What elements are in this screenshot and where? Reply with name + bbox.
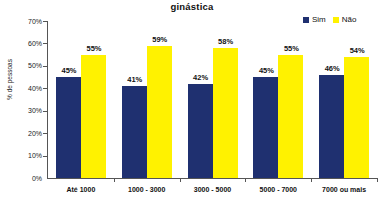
y-axis-tick-label: 0% [12,175,42,182]
chart-title: ginástica [0,1,384,12]
x-axis-tick-mark [245,178,246,182]
bar-nao [278,55,303,178]
x-axis-line [47,178,377,179]
y-axis-tick-mark [43,88,47,89]
bar-sim [253,77,278,178]
plot-area: 45%55%41%59%42%58%45%55%46%54% [48,21,377,178]
bar-value-label: 58% [209,38,243,46]
bar-value-label: 55% [274,45,308,53]
y-axis-tick-label: 50% [12,62,42,69]
y-axis-tick-mark [43,21,47,22]
x-axis-tick-mark [311,178,312,182]
bar-group: 46%54% [311,21,377,178]
bar-group: 45%55% [245,21,311,178]
bar-value-label: 59% [143,36,177,44]
y-axis-tick-label: 40% [12,85,42,92]
bar-sim [56,77,81,178]
bar-nao [81,55,106,178]
x-axis-category-label: 7000 ou mais [301,186,384,194]
y-axis-tick-mark [43,66,47,67]
y-axis-tick-label: 60% [12,40,42,47]
y-axis-tick-label: 30% [12,107,42,114]
bar-group: 42%58% [180,21,246,178]
bar-nao [344,57,369,178]
y-axis-tick-label: 10% [12,152,42,159]
bar-sim [122,86,147,178]
bar-value-label: 54% [340,47,374,55]
x-axis-tick-mark [377,178,378,182]
y-axis-tick-mark [43,43,47,44]
y-axis-tick-label: 20% [12,130,42,137]
bar-group: 41%59% [114,21,180,178]
bar-group: 45%55% [48,21,114,178]
y-axis-tick-mark [43,156,47,157]
x-axis-tick-mark [114,178,115,182]
y-axis-tick-mark [43,111,47,112]
bar-chart: ginástica Sim Não % de pessoas 70%60%50%… [0,0,384,201]
bar-nao [213,48,238,178]
bar-sim [319,75,344,178]
y-axis-tick-label: 70% [12,18,42,25]
x-axis-tick-mark [180,178,181,182]
y-axis-tick-labels: 70%60%50%40%30%20%10%0% [12,0,42,201]
bar-sim [188,84,213,178]
y-axis-tick-mark [43,133,47,134]
bar-nao [147,46,172,178]
bar-value-label: 55% [77,45,111,53]
